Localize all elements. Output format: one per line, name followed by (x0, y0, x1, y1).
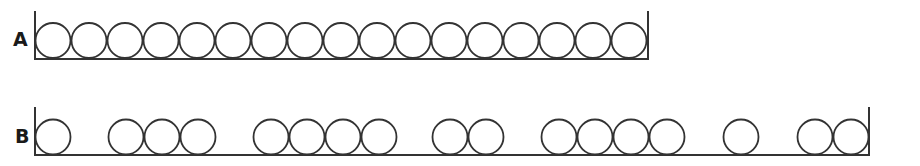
circle (290, 120, 325, 155)
circle (396, 23, 431, 58)
circle (469, 120, 504, 155)
circle (468, 23, 503, 58)
circle (324, 23, 359, 58)
circle (181, 120, 216, 155)
circle (834, 120, 869, 155)
circle (36, 120, 71, 155)
circle (542, 120, 577, 155)
row-b: B (15, 107, 869, 155)
circle-packing-diagram: A B (0, 0, 920, 166)
circle (576, 23, 611, 58)
circle (540, 23, 575, 58)
circle (362, 120, 397, 155)
circle (614, 120, 649, 155)
circle (288, 23, 323, 58)
circle (433, 120, 468, 155)
row-b-label: B (15, 125, 29, 147)
circle (109, 120, 144, 155)
circle (144, 23, 179, 58)
circle (578, 120, 613, 155)
circle (432, 23, 467, 58)
circle (108, 23, 143, 58)
circle (326, 120, 361, 155)
row-a-circles (36, 23, 647, 58)
circle (145, 120, 180, 155)
circle (360, 23, 395, 58)
circle (36, 23, 71, 58)
row-b-circles (36, 120, 869, 155)
circle (252, 23, 287, 58)
circle (254, 120, 289, 155)
circle (216, 23, 251, 58)
row-a-label: A (13, 28, 28, 50)
circle (180, 23, 215, 58)
circle (798, 120, 833, 155)
circle (72, 23, 107, 58)
circle (504, 23, 539, 58)
row-a: A (13, 11, 648, 59)
circle (650, 120, 685, 155)
circle (724, 120, 759, 155)
circle (612, 23, 647, 58)
